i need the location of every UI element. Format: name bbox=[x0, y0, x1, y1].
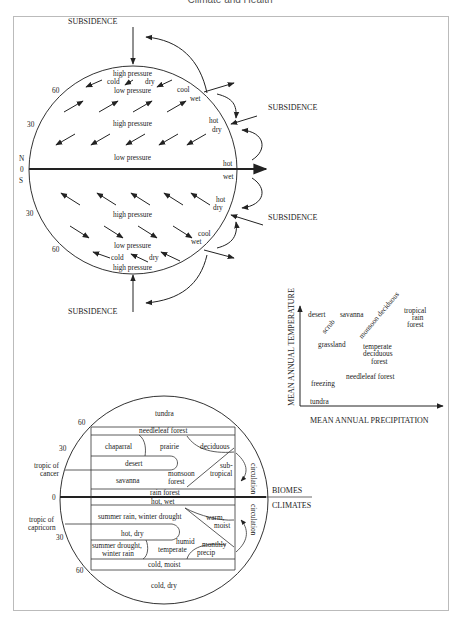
biome-deciduous-region: deciduous bbox=[200, 442, 230, 451]
biome-scrub: scrub bbox=[320, 317, 337, 335]
subsidence-label-right-upper: SUBSIDENCE bbox=[268, 103, 317, 112]
biome-savanna: savanna bbox=[340, 310, 364, 319]
ferrel-arrow-south bbox=[217, 222, 236, 248]
tropic-of-capricorn-label-2: capricorn bbox=[28, 523, 56, 532]
label-hot: hot bbox=[209, 116, 218, 125]
subsidence-inflow-arrow bbox=[231, 116, 257, 124]
climates-label: CLIMATES bbox=[272, 501, 311, 510]
tropic-of-cancer-label-2: cancer bbox=[40, 469, 60, 478]
outflow-arrow bbox=[204, 83, 234, 92]
biomes-label: BIOMES bbox=[272, 486, 302, 495]
lat-30n-lower: 30 bbox=[59, 444, 67, 453]
label-cool: cool bbox=[177, 85, 190, 94]
label-low-pressure-60s: low pressure bbox=[114, 241, 151, 250]
label-low-pressure-equator: low pressure bbox=[114, 153, 151, 162]
lat-30s: 30 bbox=[26, 209, 34, 218]
label-high-pressure-30s: high pressure bbox=[113, 210, 152, 219]
lat-S: S bbox=[19, 176, 23, 185]
lat-60s: 60 bbox=[52, 245, 60, 254]
climate-circulation-label: circulation bbox=[249, 504, 258, 536]
lat-60n-lower: 60 bbox=[78, 418, 86, 427]
subsidence-label-bottom: SUBSIDENCE bbox=[68, 307, 117, 316]
biome-rain-forest-region: rain forest bbox=[150, 488, 180, 497]
biome-monsoon-forest-region-2: forest bbox=[168, 477, 185, 486]
figure-canvas: SUBSIDENCE SUBSIDENCE SUBSIDENCE SUBSIDE… bbox=[0, 0, 460, 620]
x-axis-label: MEAN ANNUAL PRECIPITATION bbox=[310, 416, 429, 425]
subsidence-label-right-lower: SUBSIDENCE bbox=[268, 213, 317, 222]
climate-summer-rain-winter-drought: summer rain, winter drought bbox=[98, 512, 182, 521]
circulation-diagram: SUBSIDENCE SUBSIDENCE SUBSIDENCE SUBSIDE… bbox=[19, 17, 317, 316]
biome-subtropical-region-2: tropical bbox=[210, 469, 232, 478]
label-dry: dry bbox=[145, 77, 155, 86]
biome-chart: MEAN ANNUAL TEMPERATURE MEAN ANNUAL PREC… bbox=[287, 288, 443, 425]
lat-30s-lower: 30 bbox=[56, 533, 64, 542]
biome-desert-region: desert bbox=[125, 459, 142, 468]
climate-warm-moist-2: moist bbox=[214, 521, 230, 530]
label-cold: cold bbox=[107, 77, 120, 86]
climate-monthly-precip-2: precip bbox=[197, 548, 216, 557]
label-cold-south: cold bbox=[111, 253, 124, 262]
outflow-arrow-south bbox=[204, 250, 234, 258]
label-high-pressure-south-pole: high pressure bbox=[113, 263, 152, 272]
biome-temperate-deciduous-3: forest bbox=[371, 357, 388, 366]
biome-savanna-region: savanna bbox=[116, 476, 140, 485]
label-wet: wet bbox=[190, 94, 201, 103]
label-wet-equator: wet bbox=[223, 172, 234, 181]
label-wet-south: wet bbox=[191, 237, 202, 246]
climate-cold-moist: cold, moist bbox=[148, 560, 180, 569]
lat-0: 0 bbox=[20, 165, 24, 174]
biome-tropical-rain-forest-3: forest bbox=[407, 320, 424, 329]
climate-hot-wet: hot, wet bbox=[151, 497, 175, 506]
climate-summer-drought-2: winter rain bbox=[102, 549, 134, 558]
label-hot-equator: hot bbox=[223, 159, 232, 168]
biome-chaparral-region: chaparral bbox=[105, 442, 132, 451]
hadley-arrow bbox=[242, 130, 262, 160]
biome-needleleaf-region: needleleaf forest bbox=[139, 426, 187, 435]
label-dry-60s: dry bbox=[149, 253, 159, 262]
biome-grassland: grassland bbox=[318, 340, 346, 349]
ferrel-arrow bbox=[217, 94, 236, 118]
y-axis-label: MEAN ANNUAL TEMPERATURE bbox=[287, 288, 296, 406]
label-low-pressure-60n: low pressure bbox=[114, 86, 151, 95]
biome-prairie-region: prairie bbox=[160, 442, 179, 451]
subsidence-label-top: SUBSIDENCE bbox=[68, 17, 117, 26]
label-dry-30n: dry bbox=[212, 125, 222, 134]
biomes-climates-diagram: 60 30 0 30 60 tropic of cancer tropic of… bbox=[28, 396, 312, 604]
climate-cold-dry: cold, dry bbox=[151, 581, 177, 590]
hadley-arrow-south bbox=[242, 178, 262, 208]
biome-tundra-region: tundra bbox=[155, 409, 174, 418]
biome-needleleaf-forest: needleleaf forest bbox=[346, 372, 394, 381]
biome-circulation-label: circulation bbox=[249, 463, 258, 495]
climate-humid-temperate-2: temperate bbox=[158, 545, 187, 554]
lat-60s-lower: 60 bbox=[76, 566, 84, 575]
climate-hot-dry: hot, dry bbox=[121, 529, 144, 538]
lat-60n: 60 bbox=[52, 86, 60, 95]
biome-tundra: tundra bbox=[310, 397, 329, 406]
lat-30n: 30 bbox=[27, 120, 35, 129]
wind-arrows-south bbox=[61, 193, 210, 262]
biome-freezing: freezing bbox=[311, 379, 335, 388]
label-dry-south: dry bbox=[213, 203, 223, 212]
lat-N: N bbox=[19, 154, 25, 163]
lat-0-lower: 0 bbox=[52, 493, 56, 502]
biome-desert: desert bbox=[308, 310, 325, 319]
label-high-pressure-30n: high pressure bbox=[113, 119, 152, 128]
polar-cell-arrow-south bbox=[146, 255, 207, 303]
